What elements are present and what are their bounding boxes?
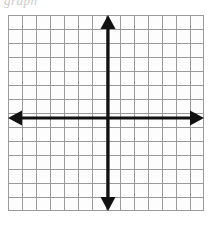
- x-axis-right-arrowhead: [190, 111, 204, 126]
- graph-figure: graph: [0, 0, 212, 228]
- y-axis-up-arrowhead: [101, 15, 116, 29]
- axes: [8, 15, 204, 211]
- coordinate-plane: [8, 15, 204, 211]
- y-axis-down-arrowhead: [101, 197, 116, 211]
- x-axis-left-arrowhead: [8, 111, 22, 126]
- clipped-artifact-text: graph: [4, 0, 38, 9]
